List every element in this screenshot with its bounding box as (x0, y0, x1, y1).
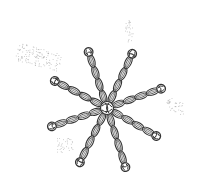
rope-star-illustration (0, 0, 197, 191)
center-knot-icon (101, 102, 114, 115)
